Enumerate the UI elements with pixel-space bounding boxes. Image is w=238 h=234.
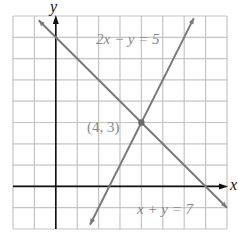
line1-label: 2x − y = 5 [96, 31, 160, 47]
graph-figure: y x 2x − y = 5 x + y = 7 (4, 3) [0, 0, 238, 234]
y-axis-label: y [48, 0, 58, 16]
intersection-point [138, 119, 144, 125]
series-line-2 [39, 20, 227, 207]
grid-lines [13, 16, 227, 229]
x-axis-label: x [229, 176, 237, 193]
line-series [39, 18, 227, 225]
line2-label: x + y = 7 [136, 201, 195, 217]
point-label: (4, 3) [87, 119, 120, 136]
